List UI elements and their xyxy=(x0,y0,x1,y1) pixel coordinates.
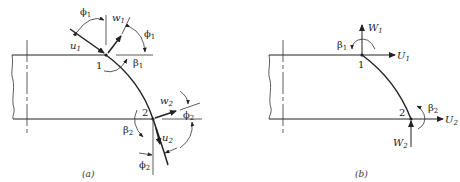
label-phi1-top: ϕ1 xyxy=(80,6,91,19)
label-beta2: β2 xyxy=(428,102,438,115)
caption-a: (a) xyxy=(82,169,95,179)
label-phi2-right: ϕ2 xyxy=(183,109,194,122)
label-U2: U2 xyxy=(445,114,458,127)
phi2-bottom-arrow-left xyxy=(139,153,152,155)
label-u2: u2 xyxy=(162,132,173,145)
label-node-1: 1 xyxy=(96,60,102,71)
label-W2: W2 xyxy=(393,137,408,150)
shell-element-diagram: ϕ1 w1 ϕ1 u1 1 β1 w2 ϕ2 2 β2 u2 ϕ2 (a) W1… xyxy=(0,0,460,182)
label-W1: W1 xyxy=(368,22,383,35)
label-w1: w1 xyxy=(112,12,125,25)
panel-a: ϕ1 w1 ϕ1 u1 1 β1 w2 ϕ2 2 β2 u2 ϕ2 (a) xyxy=(12,6,202,179)
phi2-right-arc-lower xyxy=(180,122,192,148)
break-line xyxy=(269,55,271,119)
label-phi2-bottom: ϕ2 xyxy=(139,159,150,172)
w2-arrow xyxy=(155,111,176,118)
label-beta1: β1 xyxy=(133,57,143,70)
w1-arrow xyxy=(108,36,121,53)
beta2-moment-arc xyxy=(417,106,425,129)
label-w2: w2 xyxy=(160,95,174,108)
phi1-top-arc xyxy=(77,19,104,33)
panel-b: W1 β1 U1 1 2 β2 U2 W2 (b) xyxy=(269,22,459,179)
label-beta2: β2 xyxy=(123,124,133,137)
label-node-2: 2 xyxy=(399,107,405,118)
label-u1: u1 xyxy=(70,40,81,53)
beta1-moment-arc xyxy=(352,39,375,49)
label-phi1-right: ϕ1 xyxy=(144,28,155,41)
break-line xyxy=(12,55,14,119)
label-node-1: 1 xyxy=(358,59,364,70)
caption-b: (b) xyxy=(355,169,368,179)
label-U1: U1 xyxy=(397,50,410,63)
label-node-2: 2 xyxy=(142,107,148,118)
node-1-dot xyxy=(104,53,107,56)
phi1-right-arc xyxy=(130,27,145,52)
label-beta1: β1 xyxy=(337,39,347,52)
phi2-bottom-arrow-right xyxy=(165,148,177,153)
phi2-right-arc-upper xyxy=(180,91,188,104)
